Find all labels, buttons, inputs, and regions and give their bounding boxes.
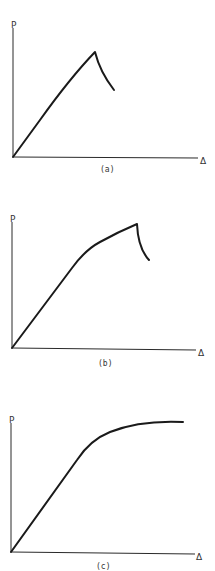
y-axis-label: P [11, 20, 17, 30]
load-deflection-diagrams: P Δ (a) P Δ (b) P Δ (c) [0, 0, 215, 571]
load-curve [11, 422, 183, 552]
x-axis [12, 348, 196, 350]
load-curve [13, 52, 114, 157]
x-axis [13, 157, 198, 158]
x-axis-label: Δ [198, 348, 205, 358]
load-curve [12, 224, 149, 348]
figure-a: P Δ (a) [11, 20, 207, 174]
x-axis-label: Δ [196, 552, 203, 562]
y-axis-label: P [10, 214, 16, 224]
figure-b: P Δ (b) [10, 214, 205, 368]
figure-caption: (c) [96, 562, 110, 571]
x-axis [11, 552, 195, 554]
figure-caption: (b) [98, 359, 112, 368]
y-axis-label: P [9, 415, 15, 425]
figure-caption: (a) [100, 165, 114, 174]
x-axis-label: Δ [200, 156, 207, 166]
figure-c: P Δ (c) [9, 415, 203, 571]
